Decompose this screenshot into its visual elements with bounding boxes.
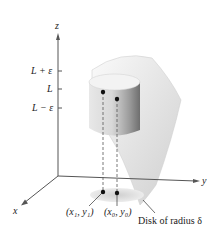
- surface-point-p0: [115, 97, 119, 101]
- y-axis-label: y: [202, 176, 206, 186]
- tick-label-l-plus-eps: L + ε: [31, 66, 52, 76]
- leader-disk: [143, 200, 155, 213]
- point-label-p1: (x₁, y₁): [66, 207, 94, 217]
- surface-point-p1: [101, 90, 105, 94]
- disk-radius-label: Disk of radius δ: [138, 216, 202, 226]
- tick-label-l: L: [47, 84, 53, 94]
- y-axis: [58, 176, 196, 181]
- epsilon-delta-limit-diagram: z y x L + ε L L − ε (x₁, y₁) (x₀, y₀) Di…: [0, 0, 220, 232]
- y-axis-arrow: [193, 179, 200, 183]
- z-axis-label: z: [55, 21, 59, 31]
- plane-point-p0: [115, 191, 119, 195]
- tick-label-l-minus-eps: L − ε: [32, 103, 53, 113]
- x-axis: [24, 176, 58, 203]
- z-axis-arrow: [56, 33, 60, 40]
- cylinder-top: [89, 74, 140, 90]
- diagram-canvas: [0, 0, 220, 232]
- x-axis-label: x: [13, 206, 17, 216]
- point-label-p0: (x₀, y₀): [104, 207, 132, 217]
